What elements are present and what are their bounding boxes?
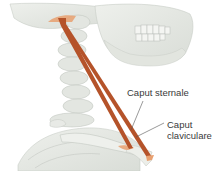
skeleton-illustration xyxy=(0,0,221,171)
label-caput-claviculare: Caput claviculare xyxy=(167,119,212,141)
leader-line-sternale xyxy=(131,101,143,130)
label-caput-sternale: Caput sternale xyxy=(127,87,189,98)
teeth-icon xyxy=(135,25,170,41)
leader-line-claviculare xyxy=(136,123,164,137)
anatomy-figure: Caput sternale Caput claviculare xyxy=(0,0,221,171)
